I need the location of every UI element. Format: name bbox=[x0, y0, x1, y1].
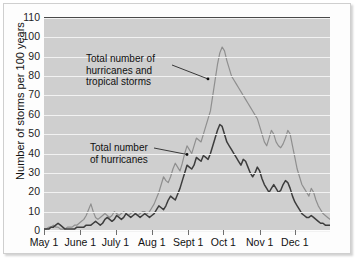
y-axis-tick-label: 80 bbox=[4, 70, 40, 80]
series-svg bbox=[44, 18, 330, 231]
y-axis-tick-label: 100 bbox=[4, 31, 40, 41]
figure-container: Number of storms per 100 years 010203040… bbox=[0, 0, 360, 265]
plot-wrapper: Total number of hurricanes and tropical … bbox=[44, 17, 330, 230]
y-axis-tick-label: 10 bbox=[4, 206, 40, 216]
x-axis-tick-label: May 1 bbox=[30, 236, 59, 248]
upper-series-annotation: Total number of hurricanes and tropical … bbox=[86, 53, 155, 88]
plot-area bbox=[44, 17, 330, 230]
gridline bbox=[44, 134, 330, 135]
gridline bbox=[44, 95, 330, 96]
x-axis-tick-label: Nov 1 bbox=[246, 236, 273, 248]
y-axis-tick-labels: 0102030405060708090100110 bbox=[0, 17, 40, 230]
upper-annotation-line-3: tropical storms bbox=[86, 76, 155, 88]
gridline bbox=[44, 212, 330, 213]
x-axis-tick-label: June 1 bbox=[65, 236, 97, 248]
x-axis-tick bbox=[116, 230, 117, 235]
lower-annotation-line-1: Total number bbox=[90, 142, 148, 154]
x-axis-tick bbox=[223, 230, 224, 235]
gridline bbox=[44, 154, 330, 155]
x-axis-tick-label: Dec 1 bbox=[281, 236, 308, 248]
y-axis-tick-label: 0 bbox=[4, 225, 40, 235]
x-axis: May 1June 1July 1Aug 1Sept 1Oct 1Nov 1De… bbox=[44, 230, 330, 260]
lower-annotation-line-2: of hurricanes bbox=[90, 154, 148, 166]
upper-annotation-line-1: Total number of bbox=[86, 53, 155, 65]
gridline bbox=[44, 173, 330, 174]
x-axis-tick bbox=[295, 230, 296, 235]
y-axis-tick-label: 70 bbox=[4, 89, 40, 99]
x-axis-tick bbox=[44, 230, 45, 235]
y-axis-tick-label: 50 bbox=[4, 128, 40, 138]
y-axis-tick-label: 110 bbox=[4, 12, 40, 22]
lower-series-annotation: Total number of hurricanes bbox=[90, 142, 148, 165]
x-axis-tick-label: Sept 1 bbox=[173, 236, 203, 248]
x-axis-tick-label: July 1 bbox=[102, 236, 129, 248]
gridline bbox=[44, 115, 330, 116]
y-axis-tick-label: 60 bbox=[4, 109, 40, 119]
x-axis-tick bbox=[152, 230, 153, 235]
gridline bbox=[44, 37, 330, 38]
x-axis-tick bbox=[80, 230, 81, 235]
y-axis-tick-label: 20 bbox=[4, 186, 40, 196]
x-axis-tick bbox=[260, 230, 261, 235]
x-axis-tick-label: Oct 1 bbox=[211, 236, 236, 248]
y-axis-tick-label: 30 bbox=[4, 167, 40, 177]
y-axis-tick-label: 40 bbox=[4, 148, 40, 158]
gridline bbox=[44, 192, 330, 193]
x-axis-tick-label: Aug 1 bbox=[138, 236, 165, 248]
gridline bbox=[44, 18, 330, 19]
x-axis-tick bbox=[188, 230, 189, 235]
y-axis-tick-label: 90 bbox=[4, 51, 40, 61]
upper-annotation-line-2: hurricanes and bbox=[86, 65, 155, 77]
